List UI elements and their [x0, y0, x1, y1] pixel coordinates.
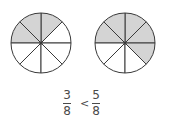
fraction-right: 5 8: [92, 89, 100, 118]
right-circle: [95, 13, 155, 73]
numerator-right: 5: [92, 89, 100, 102]
less-than-operator: <: [80, 97, 89, 110]
center-dot: [40, 42, 43, 45]
fraction-left: 3 8: [63, 89, 71, 118]
denominator-left: 8: [63, 105, 71, 118]
numerator-left: 3: [63, 89, 71, 102]
center-dot: [124, 42, 127, 45]
left-circle: [11, 13, 71, 73]
denominator-right: 8: [92, 105, 100, 118]
